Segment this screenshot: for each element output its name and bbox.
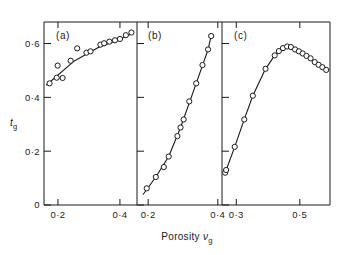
panel-a-point-9	[102, 41, 107, 46]
panel-b-point-2	[161, 164, 166, 169]
x-axis-title: Porosity νg	[161, 231, 212, 245]
panel-b-point-1	[153, 174, 158, 179]
panel-a-point-11	[112, 38, 117, 43]
panel-b-point-0	[144, 186, 149, 191]
panel-a-point-3	[60, 75, 65, 80]
y-axis-tick-labels: 0·60·40·20	[25, 38, 40, 210]
panel-series-group	[46, 30, 328, 194]
panel-b-fit-line	[143, 36, 211, 194]
panel-b-point-10	[205, 47, 210, 52]
y-tick-label-3: 0	[34, 199, 40, 210]
panel-b-point-9	[200, 62, 205, 67]
panel-label-c: (c)	[234, 30, 247, 41]
x-tick-label-b-1: 0·4	[210, 209, 225, 220]
plot-svg: 0·60·40·20 0·20·40·20·40·30·5 (a)(b)(c) …	[0, 0, 344, 255]
y-tick-label-1: 0·4	[25, 92, 40, 103]
panel-c-series	[223, 44, 329, 175]
panel-b-point-4	[175, 134, 180, 139]
panel-c-fit-line	[225, 46, 326, 172]
panel-c-point-6	[272, 53, 277, 58]
panel-label-a: (a)	[56, 30, 70, 41]
panel-c-point-2	[232, 144, 237, 149]
figure-container: 0·60·40·20 0·20·40·20·40·30·5 (a)(b)(c) …	[0, 0, 344, 255]
panel-c-point-5	[263, 66, 268, 71]
panel-labels: (a)(b)(c)	[56, 30, 247, 41]
panel-b-series	[143, 33, 214, 194]
panel-c-point-4	[250, 93, 255, 98]
x-tick-label-b-0: 0·2	[141, 209, 156, 220]
panel-b-point-11	[209, 33, 214, 38]
x-tick-label-a-1: 0·4	[112, 209, 127, 220]
panel-c-point-3	[242, 117, 247, 122]
panel-a-point-14	[129, 30, 134, 35]
y-tick-label-2: 0·2	[25, 146, 40, 157]
panel-c-point-19	[324, 67, 329, 72]
y-axis-title: tg	[10, 117, 18, 131]
panel-a-point-1	[54, 75, 59, 80]
x-tick-label-a-0: 0·2	[50, 209, 65, 220]
axis-titles: tgPorosity νg	[10, 117, 213, 245]
panel-label-b: (b)	[148, 30, 162, 41]
panel-b-point-3	[166, 154, 171, 159]
panel-b-point-8	[194, 81, 199, 86]
panel-a-point-4	[68, 58, 73, 63]
panel-a-point-0	[47, 81, 52, 86]
x-tick-label-c-1: 0·5	[292, 209, 307, 220]
panel-a-point-2	[55, 63, 60, 68]
panel-a-point-12	[117, 36, 122, 41]
x-axis-tick-labels: 0·20·40·20·40·30·5	[50, 209, 307, 220]
panel-c-point-1	[224, 167, 229, 172]
y-tick-label-0: 0·6	[25, 38, 40, 49]
panel-a-point-7	[88, 49, 93, 54]
panel-b-point-6	[181, 117, 186, 122]
panel-a-point-5	[75, 46, 80, 51]
panel-a-point-13	[123, 33, 128, 38]
x-tick-label-c-0: 0·3	[229, 209, 244, 220]
panel-b-point-7	[187, 99, 192, 104]
panel-a-point-10	[107, 39, 112, 44]
panel-b-point-5	[178, 125, 183, 130]
